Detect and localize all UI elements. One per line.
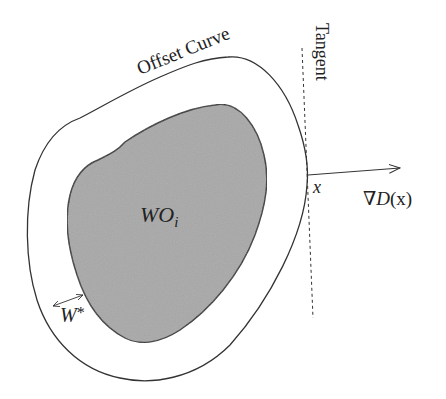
nabla-symbol: ∇: [363, 188, 376, 209]
diagram-svg: Offset Curve Tangent x ∇D(x) WOi W*: [0, 0, 446, 399]
gradient-arg: (x): [390, 188, 412, 210]
offset-curve-label: Offset Curve: [134, 22, 233, 78]
region-main: WO: [140, 202, 174, 227]
gradient-func: D: [375, 188, 390, 209]
region-label: WOi: [140, 202, 178, 230]
point-x-label: x: [312, 177, 321, 197]
gradient-label: ∇D(x): [363, 188, 412, 210]
gradient-arrow: [308, 168, 400, 175]
diagram-canvas: Offset Curve Tangent x ∇D(x) WOi W*: [0, 0, 446, 399]
region-sub: i: [174, 214, 178, 230]
width-label: W*: [60, 304, 85, 326]
tangent-label: Tangent: [312, 23, 332, 81]
width-sup: *: [77, 304, 85, 321]
